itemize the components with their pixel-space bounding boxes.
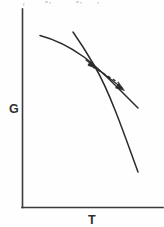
x-axis-label: T [88, 213, 96, 227]
chart-figure: G T [0, 0, 164, 227]
y-axis-label: G [9, 102, 19, 116]
chart-svg: G T [0, 0, 164, 227]
curve-shallow [40, 36, 138, 109]
scan-artifacts [23, 1, 99, 6]
curve-steep [73, 32, 138, 172]
